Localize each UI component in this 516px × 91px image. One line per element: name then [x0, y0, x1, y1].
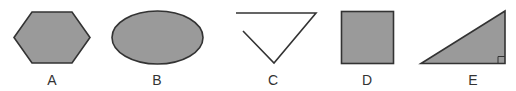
shapes-figure: A B C D E — [0, 0, 516, 91]
shape-label-a: A — [47, 72, 57, 88]
open-triangle-shape — [236, 13, 316, 63]
shape-label-e: E — [468, 72, 477, 88]
shape-b-group: B — [112, 11, 203, 88]
shape-d-group: D — [342, 12, 394, 89]
hexagon-shape — [14, 12, 90, 63]
shape-e-group: E — [421, 11, 505, 88]
ellipse-shape — [112, 11, 203, 64]
shape-label-c: C — [268, 72, 278, 88]
shape-a-group: A — [14, 12, 90, 88]
shape-label-d: D — [362, 72, 372, 88]
shape-label-b: B — [152, 72, 161, 88]
right-triangle-shape — [421, 11, 505, 64]
shape-c-group: C — [236, 13, 316, 88]
square-shape — [342, 12, 394, 64]
